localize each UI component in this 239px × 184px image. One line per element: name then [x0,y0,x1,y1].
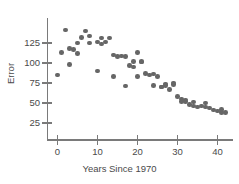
data-point [223,110,228,115]
y-axis-tick-label: 125 [16,38,40,48]
data-point [67,62,72,67]
data-point [203,101,208,106]
data-point [95,69,100,74]
data-point [123,84,128,89]
data-point [155,74,160,79]
data-point [87,41,92,46]
data-point [151,83,156,88]
data-point [107,36,112,41]
y-axis-tick [42,122,52,123]
y-axis-tick [42,102,52,103]
data-point [75,41,80,46]
data-point [135,74,140,79]
x-axis-tick [177,135,178,145]
data-point [75,51,80,56]
y-axis-tick [42,42,52,43]
y-axis-tick-label: 25 [16,118,40,128]
y-axis-title: Error [5,50,16,98]
x-axis-tick [97,135,98,145]
y-axis-tick-label: 50 [16,98,40,108]
x-axis-tick-label: 20 [125,147,151,157]
data-point [63,28,68,33]
data-point [87,34,92,39]
data-point [55,73,60,78]
y-axis-tick [42,62,52,63]
data-point [167,87,172,92]
x-axis-tick-label: 30 [165,147,191,157]
x-axis-tick [57,135,58,145]
x-axis-tick-label: 10 [85,147,111,157]
y-axis-tick-label: 100 [16,58,40,68]
scatter-plot-figure: 255075100125010203040 Error Years Since … [0,0,239,184]
x-axis-tick-label: 0 [45,147,71,157]
data-point [79,35,84,40]
y-axis-tick [42,82,52,83]
data-point [171,82,176,87]
x-axis-line [47,139,233,140]
x-axis-tick-label: 40 [205,147,231,157]
data-point [135,50,140,55]
data-point [131,59,136,64]
x-axis-tick [217,135,218,145]
data-point [83,29,88,34]
data-point [123,54,128,59]
data-point [131,65,136,70]
y-axis-tick-label: 75 [16,78,40,88]
data-point [139,60,144,65]
plot-area: 255075100125010203040 Error Years Since … [0,0,239,184]
data-point [111,74,116,79]
x-axis-tick [137,135,138,145]
x-axis-title: Years Since 1970 [0,163,239,174]
data-point [59,50,64,55]
data-point [103,40,108,45]
